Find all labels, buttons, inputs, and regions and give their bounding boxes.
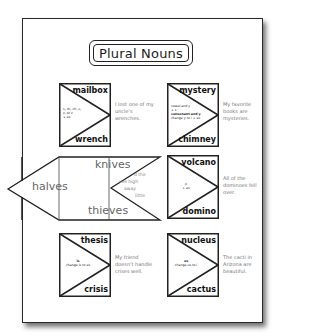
plural-rule: is change is to es <box>61 259 95 267</box>
example-sentence: All of the dominoes fell over. <box>223 175 263 196</box>
foldable-card-nucleus[interactable]: nucleus us change us to i cactus <box>167 233 219 297</box>
singular-word: mailbox <box>72 86 108 95</box>
plural-rule: o + es <box>169 182 203 190</box>
example-sentence: I lost one of my uncle's wrenches. <box>115 101 155 122</box>
example-sentence: The cacti in Arizona are beautiful. <box>223 254 263 275</box>
plural-example-word: wrench <box>75 135 108 144</box>
plural-example-word: domino <box>183 207 217 216</box>
plural-example-word: cactus <box>187 285 216 294</box>
plural-example-word: chimney <box>178 135 216 144</box>
singular-word: thesis <box>81 236 108 245</box>
example-sentence: My favorite books are mysteries. <box>223 101 263 122</box>
page-title: Plural Nouns <box>93 44 189 62</box>
plural-rule: us change us to i <box>169 259 203 267</box>
singular-word: volcano <box>181 158 216 167</box>
foldable-card-mystery[interactable]: mystery vowel and y + s consonant and y … <box>167 83 219 147</box>
plural-rule: vowel and y + s consonant and y change y… <box>171 104 201 120</box>
example-sentence: My friend doesn't handle crises well. <box>115 254 155 275</box>
plural-rule: s, sh, ch, x, z, or z + es <box>63 107 93 119</box>
singular-word: nucleus <box>181 236 216 245</box>
foldable-card-thesis[interactable]: thesis is change is to es crisis <box>59 233 111 297</box>
plural-example-word: crisis <box>84 285 108 294</box>
singular-word: mystery <box>179 86 216 95</box>
foldable-card-mailbox[interactable]: mailbox s, sh, ch, x, z, or z + es wrenc… <box>59 83 111 147</box>
foldable-card-volcano[interactable]: volcano o + es domino <box>167 155 219 219</box>
title-banner: Plural Nouns <box>89 40 193 66</box>
